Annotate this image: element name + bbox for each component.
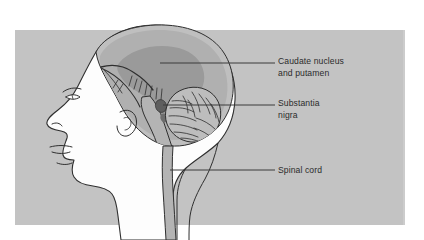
label-caudate-putamen-line1: Caudate nucleus: [278, 56, 344, 66]
diagram-canvas: Caudate nucleus and putamen Substantia n…: [0, 0, 424, 240]
brain-anatomy-figure: Caudate nucleus and putamen Substantia n…: [0, 0, 424, 240]
label-substantia-nigra-line1: Substantia: [278, 98, 320, 108]
label-substantia-nigra-line2: nigra: [278, 110, 298, 120]
label-caudate-putamen-line2: and putamen: [278, 68, 329, 78]
label-spinal-cord-line1: Spinal cord: [278, 165, 322, 175]
